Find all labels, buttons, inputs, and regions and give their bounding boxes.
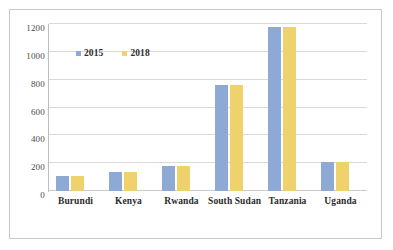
x-label-uganda: Uganda [314, 194, 367, 208]
x-axis-category-labels: BurundiKenyaRwandaSouth SudanTanzaniaUga… [49, 194, 367, 212]
bar-burundi-2015[interactable] [56, 176, 69, 191]
bar-group-south-sudan [208, 24, 261, 191]
bar-chart-figure: 020040060080010001200 BurundiKenyaRwanda… [9, 9, 382, 239]
legend-swatch-2018-icon [122, 51, 127, 56]
x-label-burundi: Burundi [49, 194, 102, 208]
bar-rwanda-2018[interactable] [177, 166, 190, 191]
bar-kenya-2018[interactable] [124, 172, 137, 191]
bar-kenya-2015[interactable] [109, 172, 122, 191]
bar-uganda-2018[interactable] [336, 162, 349, 191]
bar-uganda-2015[interactable] [321, 162, 334, 191]
x-label-tanzania: Tanzania [261, 194, 314, 208]
legend-label-2015: 2015 [84, 49, 103, 59]
x-label-rwanda: Rwanda [155, 194, 208, 208]
bar-rwanda-2015[interactable] [162, 166, 175, 191]
bar-tanzania-2015[interactable] [268, 27, 281, 191]
legend-swatch-2015-icon [76, 51, 81, 56]
x-label-south-sudan: South Sudan [208, 194, 261, 208]
y-axis-tick-labels: 020040060080010001200 [10, 24, 45, 191]
legend-entry-2018[interactable]: 2018 [122, 49, 149, 59]
bar-south-sudan-2018[interactable] [230, 85, 243, 191]
bar-group-rwanda [155, 24, 208, 191]
x-label-kenya: Kenya [102, 194, 155, 208]
bar-tanzania-2018[interactable] [283, 27, 296, 191]
bar-south-sudan-2015[interactable] [215, 85, 228, 191]
bar-group-tanzania [261, 24, 314, 191]
legend-entry-2015[interactable]: 2015 [76, 49, 103, 59]
legend-label-2018: 2018 [130, 49, 149, 59]
bar-burundi-2018[interactable] [71, 176, 84, 191]
bar-group-uganda [314, 24, 367, 191]
chart-legend: 20152018 [76, 49, 150, 59]
